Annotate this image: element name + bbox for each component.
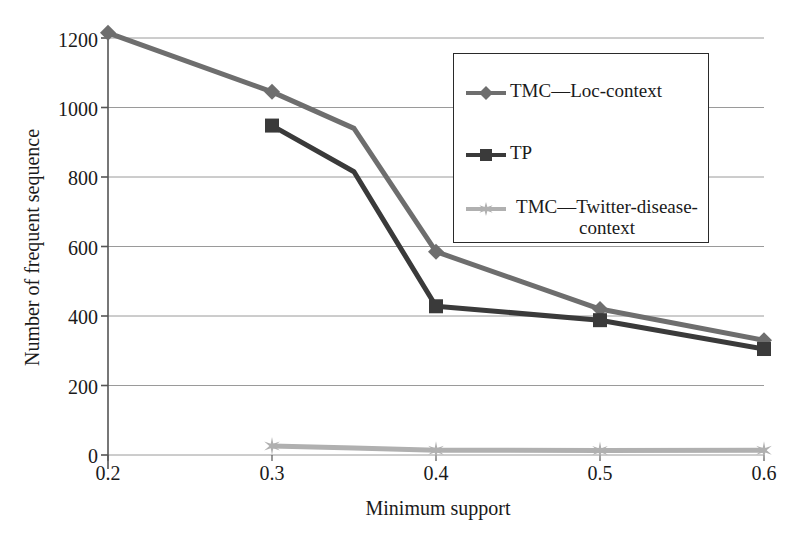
x-tick-0-4: 0.4: [396, 462, 476, 485]
legend-item-tp: TP: [466, 142, 704, 165]
legend-item-tmc-twitter-disease-context: TMC—Twitter-disease- context: [466, 196, 704, 239]
legend-item-tmc-loc-context: TMC—Loc-context: [466, 80, 704, 103]
x-axis-title: Minimum support: [110, 497, 766, 520]
chart-figure: Number of frequent sequence 1200 1000 80…: [0, 0, 796, 534]
x-tick-0-2: 0.2: [68, 462, 148, 485]
x-tick-0-3: 0.3: [232, 462, 312, 485]
legend-marker-square-icon: [466, 145, 506, 165]
legend-label-line-2: context: [579, 217, 635, 238]
legend-marker-diamond-icon: [466, 83, 506, 103]
legend-label-line-1: TMC—Twitter-disease-: [516, 196, 698, 217]
legend-marker-star-icon: [466, 199, 506, 219]
x-tick-0-5: 0.5: [560, 462, 640, 485]
legend-label-tmc-loc-context: TMC—Loc-context: [506, 80, 662, 101]
legend-label-tp: TP: [506, 142, 532, 163]
chart-legend: TMC—Loc-context TP TMC—Twitter-disease- …: [453, 53, 709, 243]
x-tick-0-6: 0.6: [724, 462, 796, 485]
legend-label-tmc-twitter-disease-context: TMC—Twitter-disease- context: [506, 196, 704, 239]
